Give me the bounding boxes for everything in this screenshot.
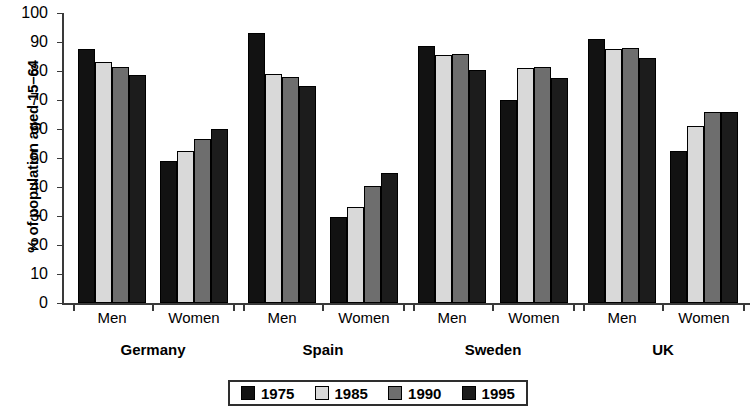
bar	[622, 48, 639, 303]
bar	[282, 77, 299, 303]
y-tick-label: 70	[30, 92, 48, 108]
y-tick-label: 80	[30, 63, 48, 79]
bar-subgroup	[330, 13, 398, 303]
x-tick	[413, 303, 415, 311]
legend-item-1975[interactable]: 1975	[241, 386, 294, 401]
bar-group	[78, 13, 228, 303]
x-tick	[243, 303, 245, 311]
bar	[330, 217, 347, 303]
y-tick: 30	[57, 216, 63, 217]
y-tick: 90	[57, 42, 63, 43]
y-tick-label: 10	[30, 266, 48, 282]
bar-subgroup	[500, 13, 568, 303]
x-tick	[403, 303, 405, 311]
sex-label-women: Women	[678, 309, 729, 326]
bar	[211, 129, 228, 303]
country-label-uk: UK	[652, 341, 674, 358]
bar	[160, 161, 177, 303]
sex-label-men: Men	[267, 309, 296, 326]
legend-label: 1995	[482, 386, 515, 401]
legend-label: 1975	[261, 386, 294, 401]
x-tick	[583, 303, 585, 311]
bar	[704, 112, 721, 303]
bar	[639, 58, 656, 303]
bar	[381, 173, 398, 304]
bar	[687, 126, 704, 303]
bar	[435, 55, 452, 303]
y-tick-label: 60	[30, 121, 48, 137]
sex-label-women: Women	[338, 309, 389, 326]
x-tick	[492, 303, 494, 311]
legend-item-1995[interactable]: 1995	[462, 386, 515, 401]
bar-group	[418, 13, 568, 303]
bar	[248, 33, 265, 303]
y-tick: 0	[57, 303, 63, 304]
y-tick: 40	[57, 187, 63, 188]
bar-subgroup	[248, 13, 316, 303]
bar-chart: % of population aged 15–64 1009080706050…	[0, 0, 755, 419]
legend-label: 1985	[335, 386, 368, 401]
bar	[605, 49, 622, 303]
y-tick: 60	[57, 129, 63, 130]
bar-subgroup	[588, 13, 656, 303]
y-tick: 80	[57, 71, 63, 72]
bar	[177, 151, 194, 303]
sex-label-men: Men	[437, 309, 466, 326]
y-tick-label: 30	[30, 208, 48, 224]
bar-subgroup	[670, 13, 738, 303]
y-tick: 70	[57, 100, 63, 101]
y-tick-label: 20	[30, 237, 48, 253]
chart-legend: 1975198519901995	[228, 380, 528, 406]
bar-group	[248, 13, 398, 303]
bar	[418, 46, 435, 303]
bar	[129, 75, 146, 303]
bar	[469, 70, 486, 303]
x-tick	[573, 303, 575, 311]
bar	[347, 207, 364, 303]
bar-group	[588, 13, 738, 303]
sex-label-women: Women	[508, 309, 559, 326]
legend-item-1990[interactable]: 1990	[388, 386, 441, 401]
legend-swatch-icon	[315, 386, 329, 400]
y-tick-label: 40	[30, 179, 48, 195]
bar	[78, 49, 95, 303]
x-tick	[152, 303, 154, 311]
y-tick: 20	[57, 245, 63, 246]
plot-area: 1009080706050403020100	[62, 13, 750, 303]
y-tick-label: 0	[39, 295, 48, 311]
x-tick	[322, 303, 324, 311]
y-tick: 50	[57, 158, 63, 159]
x-tick	[743, 303, 745, 311]
bar	[194, 139, 211, 303]
bar	[517, 68, 534, 303]
bar	[721, 112, 738, 303]
bar	[670, 151, 687, 303]
y-tick: 10	[57, 274, 63, 275]
bar	[452, 54, 469, 303]
bar	[551, 78, 568, 303]
x-tick	[233, 303, 235, 311]
bar-subgroup	[160, 13, 228, 303]
legend-label: 1990	[408, 386, 441, 401]
bar	[364, 186, 381, 303]
legend-item-1985[interactable]: 1985	[315, 386, 368, 401]
country-label-germany: Germany	[120, 341, 185, 358]
country-label-sweden: Sweden	[465, 341, 522, 358]
bar	[534, 67, 551, 303]
x-tick	[662, 303, 664, 311]
bar-subgroup	[418, 13, 486, 303]
bar	[265, 74, 282, 303]
legend-swatch-icon	[462, 386, 476, 400]
x-axis-line	[62, 303, 750, 305]
bar	[500, 100, 517, 303]
bar	[588, 39, 605, 303]
legend-swatch-icon	[388, 386, 402, 400]
legend-swatch-icon	[241, 386, 255, 400]
y-tick-label: 90	[30, 34, 48, 50]
x-tick	[73, 303, 75, 311]
country-label-spain: Spain	[303, 341, 344, 358]
y-tick-label: 100	[21, 5, 48, 21]
y-tick: 100	[57, 13, 63, 14]
y-tick-label: 50	[30, 150, 48, 166]
sex-label-men: Men	[607, 309, 636, 326]
